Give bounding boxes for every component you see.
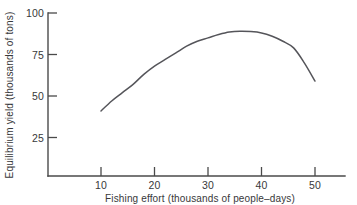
x-axis-title: Fishing effort (thousands of people–days… [105,193,295,204]
y-tick-label-75: 75 [32,49,44,61]
x-tick-label-30: 30 [202,179,214,191]
x-tick-label-10: 10 [95,179,107,191]
x-tick-label-40: 40 [255,179,267,191]
y-tick-label-100: 100 [26,7,44,19]
equilibrium-yield-plot: 100 75 50 25 10 20 30 40 50 Fishing effo… [0,0,357,205]
x-tick-label-50: 50 [309,179,321,191]
y-tick-label-50: 50 [32,90,44,102]
x-tick-label-20: 20 [148,179,160,191]
chart-figure: 100 75 50 25 10 20 30 40 50 Fishing effo… [0,0,357,205]
y-axis-title: Equilibrium yield (thousands of tons) [4,12,15,179]
y-tick-label-25: 25 [32,132,44,144]
yield-curve [101,31,315,111]
